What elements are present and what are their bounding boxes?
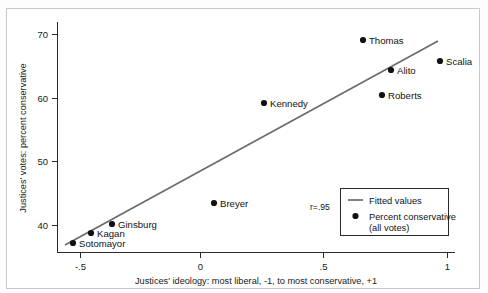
marker-dot <box>70 240 76 246</box>
point-label-scalia: Scalia <box>446 56 473 67</box>
point-label-ginsburg: Ginsburg <box>118 219 157 230</box>
marker-dot <box>261 100 267 106</box>
marker-dot <box>88 230 94 236</box>
marker-dot <box>437 58 443 64</box>
point-label-roberts: Roberts <box>388 90 422 101</box>
x-tick-label-1: 1 <box>445 261 450 272</box>
x-axis-title: Justices' ideology: most liberal, -1, to… <box>135 276 377 286</box>
marker-dot <box>388 67 394 73</box>
scatter-plot: 70 60 50 40 -.5 0 .5 1 Justices' ideolog… <box>0 0 488 293</box>
point-label-breyer: Breyer <box>220 198 249 209</box>
y-tick-label-70: 70 <box>37 29 48 40</box>
x-tick-label-neg05: -.5 <box>75 261 86 272</box>
x-tick-label-0: 0 <box>198 261 203 272</box>
point-label-kennedy: Kennedy <box>270 98 308 109</box>
data-point-sotomayor[interactable]: Sotomayor <box>70 238 126 249</box>
legend-label-fitted-values: Fitted values <box>369 196 422 206</box>
legend-label-all-votes: (all votes) <box>369 223 409 233</box>
chart-legend: Fitted values Percent conservative (all … <box>341 189 456 236</box>
x-axis-tick-labels: -.5 0 .5 1 <box>75 261 450 272</box>
data-point-breyer[interactable]: Breyer <box>211 198 249 209</box>
y-tick-label-40: 40 <box>37 220 48 231</box>
legend-dot-swatch <box>352 213 358 219</box>
data-point-roberts[interactable]: Roberts <box>379 90 422 101</box>
marker-dot <box>360 37 366 43</box>
marker-dot <box>211 200 217 206</box>
figure-container: 70 60 50 40 -.5 0 .5 1 Justices' ideolog… <box>0 0 488 293</box>
point-label-thomas: Thomas <box>369 35 404 46</box>
point-label-alito: Alito <box>397 65 416 76</box>
x-axis-ticks <box>81 253 448 259</box>
data-point-thomas[interactable]: Thomas <box>360 35 404 46</box>
y-tick-label-60: 60 <box>37 93 48 104</box>
data-point-kennedy[interactable]: Kennedy <box>261 98 308 109</box>
y-axis-tick-labels: 70 60 50 40 <box>37 29 48 231</box>
marker-dot <box>379 92 385 98</box>
y-axis-title: Justices' votes: percent conservative <box>18 63 28 212</box>
point-label-sotomayor: Sotomayor <box>79 238 126 249</box>
y-axis-ticks <box>52 35 58 226</box>
data-point-scalia[interactable]: Scalia <box>437 56 473 67</box>
legend-label-percent-conservative: Percent conservative <box>369 212 456 222</box>
x-tick-label-05: .5 <box>320 261 328 272</box>
correlation-annotation: r=.95 <box>310 202 330 212</box>
marker-dot <box>109 221 115 227</box>
y-tick-label-50: 50 <box>37 156 48 167</box>
